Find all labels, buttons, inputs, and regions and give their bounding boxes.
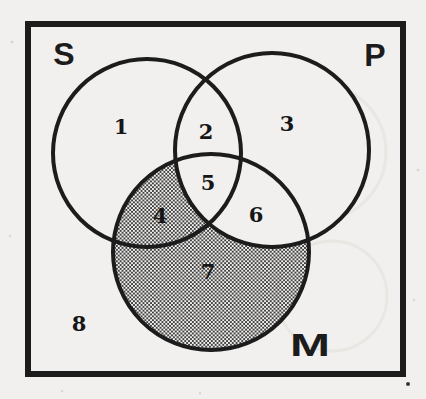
venn-diagram-figure: S P M 1 2 3 4 5 6 7 8 [0,0,426,399]
scanned-venn-diagram-page: S P M 1 2 3 4 5 6 7 8 [0,0,426,399]
scan-speck [11,41,14,44]
region-label-8: 8 [72,311,87,336]
scan-speck [417,169,419,171]
scan-speck [199,392,202,395]
scan-speck [413,299,415,301]
region-label-1: 1 [114,114,129,139]
region-label-4: 4 [153,203,168,228]
set-label-m: M [290,327,330,363]
region-label-5: 5 [201,170,216,195]
region-label-7: 7 [201,259,216,284]
scan-period-dot [406,382,410,386]
region-label-6: 6 [249,202,264,227]
set-label-p: P [364,37,385,73]
set-label-s: S [53,36,74,72]
scan-speck [61,390,63,392]
scan-speck [9,235,11,237]
region-label-2: 2 [199,119,214,144]
region-label-3: 3 [280,111,295,136]
